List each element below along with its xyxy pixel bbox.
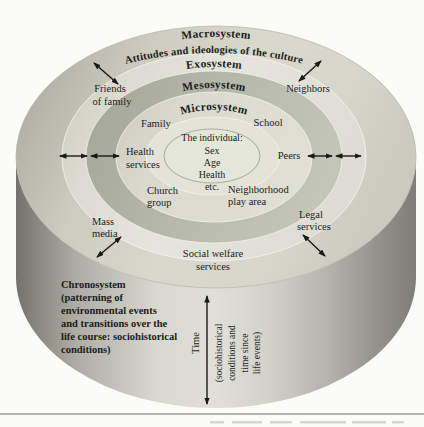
time-label: Time (190, 332, 201, 354)
label-health-line2: services (126, 159, 160, 170)
ecological-systems-figure: Macrosystem Attitudes and ideologies of … (0, 0, 424, 427)
label-friends-line1: Friends (94, 83, 126, 94)
chronosystem-line5: life course: sociohistorical (61, 331, 177, 342)
label-neighbors: Neighbors (286, 83, 330, 94)
time-sub-line3: time since (240, 334, 250, 373)
cropped-caption-artifact (210, 421, 404, 424)
label-mass-line2: media (92, 228, 118, 239)
individual-title: The individual: (181, 132, 242, 143)
time-sub-line2: conditions and (227, 325, 237, 381)
label-peers: Peers (278, 150, 301, 161)
label-church-line2: group (147, 197, 172, 208)
label-friends-line2: of family (93, 96, 133, 107)
label-mass-line1: Mass (92, 216, 114, 227)
label-legal-line1: Legal (299, 209, 323, 220)
individual-attr-etc: etc. (205, 181, 219, 192)
time-sub-line4: life events) (252, 332, 263, 374)
chronosystem-line4: and transitions over the (61, 318, 168, 329)
label-school: School (253, 117, 282, 128)
label-church-line1: Church (147, 185, 179, 196)
diagram-canvas: Macrosystem Attitudes and ideologies of … (0, 0, 424, 427)
label-neighborhood-line2: play area (228, 196, 267, 207)
label-health-line1: Health (126, 146, 155, 157)
label-welfare-line2: services (196, 261, 230, 272)
chronosystem-line3: environmental events (61, 305, 157, 316)
time-sub-line1: (sociohistorical (214, 323, 225, 382)
chronosystem-line6: conditions) (61, 344, 111, 356)
exosystem-label: Exosystem (185, 57, 243, 71)
label-family: Family (141, 118, 172, 129)
label-neighborhood-line1: Neighborhood (228, 184, 289, 195)
individual-attr-age: Age (204, 157, 221, 168)
label-legal-line2: services (297, 221, 331, 232)
exosystem-label-text: Exosystem (185, 57, 243, 71)
individual-attr-health: Health (199, 169, 226, 180)
chronosystem-line2: (patterning of (61, 292, 124, 304)
label-welfare-line1: Social welfare (183, 248, 244, 259)
individual-attr-sex: Sex (205, 145, 220, 156)
chronosystem-line1: Chronosystem (61, 279, 126, 290)
